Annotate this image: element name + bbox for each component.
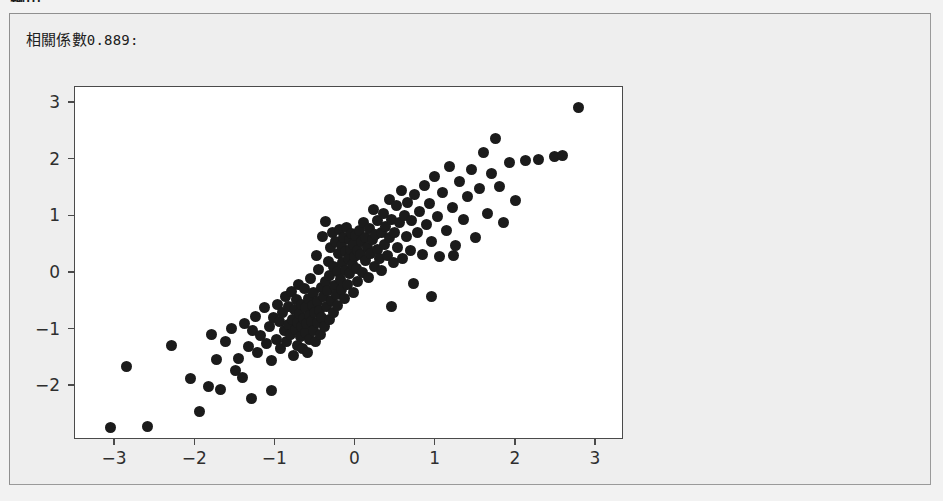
scatter-point bbox=[414, 206, 425, 217]
output-panel: 相關係數0.889: −3−2−10123−2−10123 bbox=[9, 13, 931, 485]
scatter-point bbox=[426, 236, 437, 247]
scatter-point bbox=[401, 231, 412, 242]
y-axis-tick bbox=[68, 384, 74, 385]
scatter-point bbox=[432, 211, 443, 222]
y-axis-tick-label: 3 bbox=[49, 92, 60, 112]
scatter-point bbox=[368, 204, 379, 215]
correlation-value: 0.889 bbox=[87, 32, 130, 48]
y-axis-tick-label: 2 bbox=[49, 149, 60, 169]
scatter-point bbox=[396, 185, 407, 196]
scatter-point bbox=[406, 215, 417, 226]
scatter-point bbox=[470, 232, 481, 243]
x-axis-tick bbox=[594, 439, 595, 445]
scatter-point bbox=[474, 183, 485, 194]
scatter-point bbox=[478, 147, 489, 158]
scatter-point bbox=[313, 264, 324, 275]
scatter-point bbox=[494, 181, 505, 192]
scatter-point bbox=[405, 245, 416, 256]
scatter-point bbox=[389, 227, 400, 238]
scatter-point bbox=[266, 355, 277, 366]
scatter-point bbox=[454, 176, 465, 187]
y-axis-tick bbox=[68, 271, 74, 272]
scatter-point bbox=[533, 154, 544, 165]
scatter-point bbox=[458, 214, 469, 225]
scatter-point bbox=[447, 202, 458, 213]
scatter-point bbox=[211, 354, 222, 365]
x-axis-tick-label: 2 bbox=[509, 448, 520, 468]
scatter-point bbox=[412, 227, 423, 238]
x-axis-tick-label: −2 bbox=[182, 448, 207, 468]
scatter-point bbox=[250, 311, 261, 322]
x-axis-tick bbox=[434, 439, 435, 445]
y-axis-tick bbox=[68, 215, 74, 216]
x-axis-tick bbox=[354, 439, 355, 445]
scatter-point bbox=[421, 219, 432, 230]
scatter-point bbox=[510, 195, 521, 206]
scatter-point bbox=[302, 347, 313, 358]
scatter-point bbox=[448, 250, 459, 261]
y-axis-tick bbox=[68, 328, 74, 329]
scatter-figure: −3−2−10123−2−10123 bbox=[21, 54, 661, 474]
scatter-point bbox=[194, 406, 205, 417]
y-axis-tick-label: −1 bbox=[35, 319, 60, 339]
scatter-point bbox=[419, 180, 430, 191]
scatter-point bbox=[226, 323, 237, 334]
scatter-point bbox=[498, 217, 509, 228]
scatter-point bbox=[252, 347, 263, 358]
scatter-point bbox=[259, 302, 270, 313]
plot-area bbox=[74, 86, 623, 439]
scatter-point bbox=[504, 157, 515, 168]
scatter-point bbox=[266, 385, 277, 396]
scatter-point bbox=[573, 102, 584, 113]
scatter-point bbox=[441, 225, 452, 236]
scatter-point bbox=[203, 381, 214, 392]
scatter-point bbox=[206, 329, 217, 340]
scatter-point bbox=[417, 249, 428, 260]
scatter-point bbox=[520, 155, 531, 166]
y-axis-tick-label: −2 bbox=[35, 375, 60, 395]
x-axis-tick bbox=[194, 439, 195, 445]
page-title: 輸出 bbox=[10, 0, 41, 2]
scatter-point bbox=[105, 422, 116, 433]
scatter-point bbox=[246, 393, 257, 404]
scatter-point bbox=[185, 373, 196, 384]
scatter-point bbox=[142, 421, 153, 432]
scatter-point bbox=[121, 361, 132, 372]
x-axis-tick bbox=[274, 439, 275, 445]
scatter-point bbox=[311, 250, 322, 261]
x-axis-tick-label: 1 bbox=[429, 448, 440, 468]
x-axis-tick-label: −3 bbox=[102, 448, 127, 468]
scatter-point bbox=[437, 187, 448, 198]
scatter-point bbox=[305, 273, 316, 284]
scatter-point bbox=[424, 198, 435, 209]
scatter-point bbox=[320, 216, 331, 227]
scatter-point bbox=[462, 191, 473, 202]
scatter-point bbox=[466, 164, 477, 175]
scatter-point bbox=[486, 168, 497, 179]
scatter-point bbox=[237, 372, 248, 383]
x-axis-tick-label: 0 bbox=[349, 448, 360, 468]
scatter-point bbox=[348, 287, 359, 298]
x-axis-tick-label: −1 bbox=[262, 448, 287, 468]
correlation-label: 相關係數0.889: bbox=[26, 28, 139, 49]
x-axis-tick bbox=[514, 439, 515, 445]
correlation-colon: : bbox=[130, 32, 139, 48]
scatter-point bbox=[220, 336, 231, 347]
y-axis-tick bbox=[68, 158, 74, 159]
scatter-point bbox=[363, 272, 374, 283]
correlation-label-prefix: 相關係數 bbox=[26, 31, 87, 49]
y-axis-tick-label: 0 bbox=[49, 262, 60, 282]
scatter-point bbox=[233, 353, 244, 364]
scatter-point bbox=[391, 200, 402, 211]
scatter-point bbox=[434, 251, 445, 262]
scatter-point bbox=[429, 171, 440, 182]
scatter-point bbox=[392, 242, 403, 253]
scatter-point bbox=[386, 301, 397, 312]
x-axis-tick-label: 3 bbox=[590, 448, 601, 468]
scatter-point bbox=[376, 265, 387, 276]
scatter-point bbox=[490, 133, 501, 144]
scatter-point bbox=[215, 384, 226, 395]
scatter-point bbox=[426, 291, 437, 302]
scatter-point bbox=[166, 340, 177, 351]
scatter-point bbox=[408, 278, 419, 289]
